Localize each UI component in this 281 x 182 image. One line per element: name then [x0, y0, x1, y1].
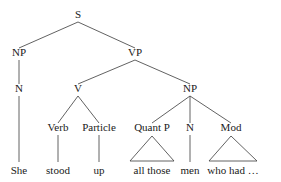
tree-edge-s-vp — [78, 22, 135, 48]
tree-edge-s-np1 — [19, 22, 78, 48]
node-label-v: V — [74, 82, 82, 94]
tree-edge-np2-mod — [190, 96, 231, 123]
node-label-verb: Verb — [48, 121, 69, 133]
leaf-label-w-men: men — [181, 164, 200, 176]
leaf-label-w-stood: stood — [46, 164, 70, 176]
leaf-triangle-w-who — [209, 136, 257, 161]
leaf-label-w-she: She — [11, 164, 28, 176]
tree-edges — [19, 22, 231, 162]
node-label-n1: N — [15, 82, 23, 94]
syntax-tree-diagram: SNPVPNVNPVerbParticleQuant PNMod Shestoo… — [0, 0, 281, 182]
leaf-label-w-all: all those — [134, 164, 171, 176]
node-label-quantp: Quant P — [134, 121, 170, 133]
node-label-np1: NP — [12, 46, 26, 58]
tree-canvas: SNPVPNVNPVerbParticleQuant PNMod Shestoo… — [0, 0, 281, 182]
node-label-s: S — [75, 8, 81, 20]
tree-edge-v-verb — [58, 96, 78, 123]
tree-edge-np2-quantp — [152, 96, 190, 123]
tree-edge-vp-v — [78, 60, 135, 84]
node-label-n2: N — [186, 121, 194, 133]
node-label-np2: NP — [183, 82, 197, 94]
tree-leaves: Shestoodupall thosemenwho had … — [11, 164, 259, 176]
tree-edge-v-particle — [78, 96, 99, 123]
node-label-vp: VP — [128, 46, 142, 58]
tree-triangles — [130, 136, 257, 161]
tree-nodes: SNPVPNVNPVerbParticleQuant PNMod — [12, 8, 242, 133]
leaf-triangle-w-all — [130, 136, 174, 161]
node-label-mod: Mod — [221, 121, 242, 133]
leaf-label-w-who: who had … — [207, 164, 258, 176]
tree-edge-vp-np2 — [135, 60, 190, 84]
node-label-particle: Particle — [82, 121, 116, 133]
leaf-label-w-up: up — [94, 164, 106, 176]
